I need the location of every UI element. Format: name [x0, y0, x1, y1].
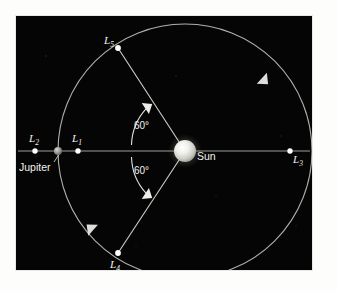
radial-line-sun-to-L5	[118, 48, 185, 151]
lagrange-point-L5-marker	[115, 45, 121, 51]
lagrange-point-L1-marker	[75, 148, 80, 153]
radial-line-sun-to-L4	[118, 151, 185, 253]
sun-body	[174, 140, 196, 162]
jupiter-body	[54, 147, 62, 155]
lagrange-point-L2-marker	[32, 148, 37, 153]
diagram-canvas	[0, 0, 337, 293]
angle-arc-upper	[132, 109, 147, 145]
lagrange-point-L4-marker	[115, 250, 121, 256]
lagrange-point-L3-marker	[287, 148, 292, 153]
angle-arc-lower	[132, 157, 147, 193]
lagrange-point-diagram: L5 L2 L1 L3 L4 Jupiter Sun 60° 60°	[0, 0, 337, 293]
orbit-direction-arrow-upper	[257, 73, 273, 90]
